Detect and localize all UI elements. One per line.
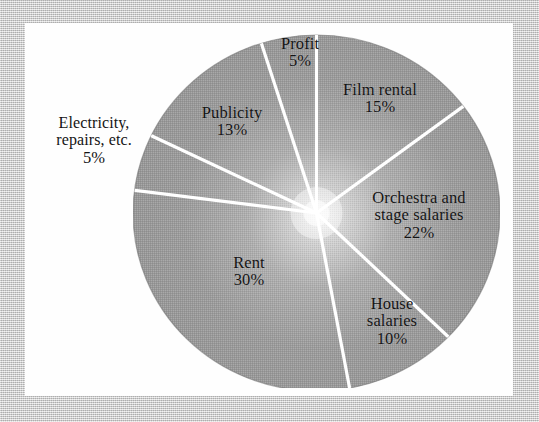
slice-pct-orchestra: 22% [343,224,495,241]
slice-label-rent: Rent 30% [203,254,295,289]
slice-name-house-line1: House [340,295,444,312]
slice-name-film-rental: Film rental [320,81,440,98]
slice-label-electricity: Electricity, repairs, etc. 5% [31,115,157,166]
slice-name-orchestra-line1: Orchestra and [343,189,495,206]
slice-pct-publicity: 13% [177,121,287,138]
slice-pct-profit: 5% [254,52,346,69]
slice-name-electricity-line2: repairs, etc. [31,132,157,149]
slice-name-electricity-line1: Electricity, [31,115,157,132]
center-highlight-core [304,200,330,226]
pie-chart: Profit 5% Film rental 15% Orchestra and … [25,23,513,396]
slice-label-film-rental: Film rental 15% [320,81,440,116]
slice-label-publicity: Publicity 13% [177,104,287,139]
slice-name-profit: Profit [254,35,346,52]
slice-label-orchestra: Orchestra and stage salaries 22% [343,189,495,241]
figure-page: Profit 5% Film rental 15% Orchestra and … [0,0,539,422]
slice-name-rent: Rent [203,254,295,271]
slice-pct-film-rental: 15% [320,98,440,115]
slice-name-publicity: Publicity [177,104,287,121]
slice-label-house-salaries: House salaries 10% [340,295,444,347]
slice-name-house-line2: salaries [340,312,444,329]
slice-pct-electricity: 5% [31,149,157,166]
slice-pct-house: 10% [340,330,444,347]
figure-plate: Profit 5% Film rental 15% Orchestra and … [25,23,513,396]
slice-label-profit: Profit 5% [254,35,346,70]
slice-pct-rent: 30% [203,271,295,288]
slice-name-orchestra-line2: stage salaries [343,206,495,223]
